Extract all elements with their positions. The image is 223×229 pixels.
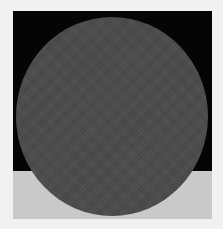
grey-circle bbox=[16, 17, 208, 216]
square-panel bbox=[13, 11, 212, 219]
